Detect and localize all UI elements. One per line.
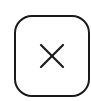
close-button[interactable]: Close	[14, 15, 90, 97]
close-icon	[39, 39, 65, 73]
